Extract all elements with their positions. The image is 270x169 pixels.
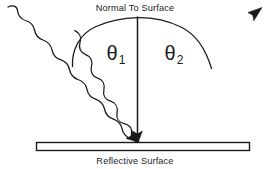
- angle-theta-1-label: θ 1: [106, 42, 125, 67]
- reflective-surface-label: Reflective Surface: [96, 156, 173, 166]
- angle-arc: [72, 18, 211, 69]
- diagram-canvas: Normal To Surface θ 1 θ 2: [0, 0, 270, 169]
- theta-1-subscript: 1: [119, 53, 126, 67]
- reflection-diagram: Normal To Surface θ 1 θ 2: [0, 0, 270, 169]
- reflected-wavy-ray: [52, 8, 262, 145]
- reflected-arrowhead-icon: [248, 8, 262, 21]
- theta-2-symbol: θ: [164, 42, 175, 64]
- normal-to-surface-label: Normal To Surface: [96, 3, 174, 13]
- theta-1-symbol: θ: [106, 42, 117, 64]
- theta-2-subscript: 2: [177, 53, 184, 67]
- incident-ray-path: [8, 6, 131, 139]
- reflective-surface-bar: [37, 143, 250, 151]
- angle-theta-2-label: θ 2: [164, 42, 183, 67]
- normal-to-surface-line: [133, 17, 143, 144]
